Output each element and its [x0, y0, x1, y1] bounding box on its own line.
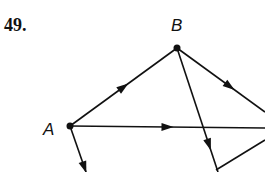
node-b — [174, 45, 181, 52]
arrowhead-icon — [161, 123, 173, 131]
arrowhead-icon — [203, 138, 214, 152]
arrowhead-icon — [116, 80, 130, 94]
arrowhead-icon — [79, 160, 90, 172]
edge-B-right — [177, 48, 265, 112]
arrowhead-icon — [223, 80, 237, 94]
node-a — [67, 123, 74, 130]
directed-graph — [0, 0, 265, 172]
edge-B-bottom — [177, 48, 218, 172]
edge-bottom-right — [216, 140, 265, 170]
